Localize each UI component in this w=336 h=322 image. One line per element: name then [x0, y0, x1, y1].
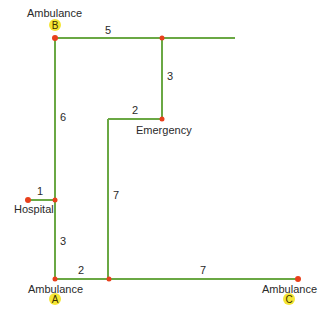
road-network-diagram: 5 3 2 6 7 1 3 2 7 Ambulance B Emergency …: [0, 0, 336, 322]
node-junction-top: [160, 36, 165, 41]
label-ambulance-b: Ambulance: [27, 7, 82, 19]
weight-a-right: 2: [78, 264, 84, 276]
node-emergency: [160, 117, 165, 122]
node-junction-bottom: [107, 277, 112, 282]
badge-b-text: B: [52, 20, 59, 31]
weight-b-top: 5: [105, 24, 111, 36]
badge-a-text: A: [52, 294, 59, 305]
node-junction-hospital: [53, 198, 58, 203]
node-ambulance-c: [295, 276, 301, 282]
weight-top-to-emergency: 3: [167, 70, 173, 82]
badge-c-text: C: [285, 294, 292, 305]
weight-middle-vertical: 7: [113, 189, 119, 201]
weight-bottom-to-c: 7: [200, 264, 206, 276]
node-ambulance-a: [53, 277, 58, 282]
node-ambulance-b: [52, 35, 58, 41]
weight-b-down: 6: [60, 111, 66, 123]
weight-hospital-to-a: 3: [60, 235, 66, 247]
weight-emergency-left: 2: [132, 104, 138, 116]
weight-hospital-spur: 1: [37, 185, 43, 197]
label-emergency: Emergency: [136, 124, 192, 136]
label-hospital: Hospital: [14, 203, 54, 215]
